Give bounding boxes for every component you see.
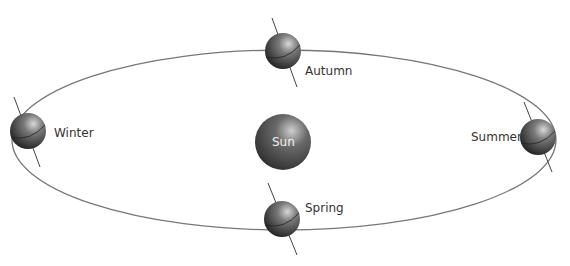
planet-summer — [520, 102, 556, 172]
planet-autumn — [265, 18, 301, 87]
sun-label: Sun — [272, 135, 295, 149]
planet-winter — [10, 97, 46, 167]
season-label-summer: Summer — [471, 130, 522, 144]
planet-spring — [264, 183, 300, 255]
season-label-spring: Spring — [305, 201, 344, 215]
season-label-autumn: Autumn — [305, 64, 352, 78]
season-label-winter: Winter — [54, 126, 94, 140]
